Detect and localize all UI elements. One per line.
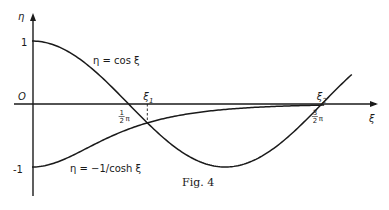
series-line-1 xyxy=(32,105,324,167)
x-axis-arrow-icon xyxy=(370,101,378,107)
x-tick-pi-symbol: π xyxy=(319,115,324,123)
figure: η ξ O 1 -1 η = cos ξ η = −1/cosh ξ Fig. … xyxy=(0,0,389,210)
x-tick-numerator: 3 xyxy=(313,109,317,117)
labels: η ξ O 1 -1 η = cos ξ η = −1/cosh ξ Fig. … xyxy=(13,11,375,189)
y-axis-arrow-icon xyxy=(30,13,36,21)
intersection-subscript: 1 xyxy=(149,97,153,105)
intersection-subscript: 2 xyxy=(322,97,327,105)
x-tick-denominator: 2 xyxy=(120,117,124,125)
y-axis-label: η xyxy=(18,11,24,22)
curve-label-sech: η = −1/cosh ξ xyxy=(70,163,141,174)
figure-caption: Fig. 4 xyxy=(182,176,214,189)
x-tick-pi-symbol: π xyxy=(126,115,131,123)
y-tick-label-neg1: -1 xyxy=(13,164,23,175)
x-tick-numerator: 1 xyxy=(120,109,124,117)
x-axis-label: ξ xyxy=(368,113,375,124)
x-tick-denominator: 2 xyxy=(313,117,317,125)
origin-label: O xyxy=(18,91,26,102)
intersection-label-1: ξ1 xyxy=(142,91,153,105)
y-tick-label-1: 1 xyxy=(21,37,27,48)
intersection-label-2: ξ2 xyxy=(316,91,328,105)
curve-label-cos: η = cos ξ xyxy=(93,55,140,66)
